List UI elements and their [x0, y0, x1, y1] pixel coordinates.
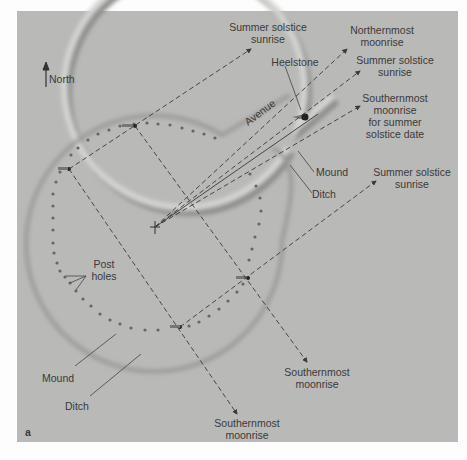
label-mound-left: Mound	[42, 372, 74, 384]
label-summer-solstice-sunrise-2: Summer solsticesunrise	[345, 54, 445, 78]
panel-letter: a	[25, 426, 31, 438]
center-cross-icon	[150, 221, 160, 234]
label-ditch-right: Ditch	[312, 188, 336, 200]
label-post-holes: Postholes	[84, 258, 124, 282]
label-southernmost-moonrise-2: Southernmostmoonrise	[202, 417, 292, 441]
label-summer-solstice-sunrise-3: Summer solsticesunrise	[362, 166, 462, 190]
leader-lines	[66, 66, 314, 396]
label-heelstone: Heelstone	[255, 56, 335, 68]
label-southernmost-moonrise-summer: Southernmostmoonrisefor summersolstice d…	[350, 92, 440, 140]
label-ditch-left: Ditch	[65, 400, 89, 412]
label-summer-solstice-sunrise-1: Summer solsticesunrise	[218, 21, 318, 45]
label-northernmost-moonrise: Northernmostmoonrise	[337, 24, 427, 48]
north-label: North	[49, 73, 75, 85]
label-southernmost-moonrise-1: Southernmostmoonrise	[272, 366, 362, 390]
label-mound-right: Mound	[316, 166, 348, 178]
